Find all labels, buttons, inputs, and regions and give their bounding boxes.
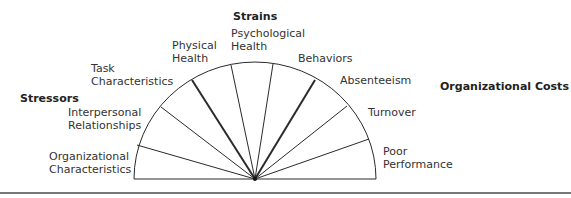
label-task-characteristics: TaskCharacteristics — [91, 62, 173, 88]
label-poor-performance: PoorPerformance — [383, 145, 453, 171]
label-interpersonal-relationships: InterpersonalRelationships — [68, 106, 141, 132]
bottom-rule — [0, 192, 571, 194]
header-stressors: Stressors — [20, 92, 79, 105]
label-physical-health: PhysicalHealth — [172, 39, 217, 65]
header-organizational-costs: Organizational Costs — [440, 80, 569, 93]
spoke-5 — [255, 64, 273, 179]
spoke-7 — [255, 106, 347, 179]
label-behaviors: Behaviors — [298, 52, 353, 65]
spoke-3-bold — [192, 80, 255, 179]
spoke-2 — [161, 107, 255, 179]
label-absenteeism: Absenteeism — [340, 74, 411, 87]
label-organizational-characteristics: OrganizationalCharacteristics — [49, 150, 131, 176]
spoke-6-bold — [255, 80, 315, 179]
header-strains: Strains — [233, 10, 277, 23]
hub — [253, 177, 257, 181]
label-psychological-health: PsychologicalHealth — [231, 27, 305, 53]
label-turnover: Turnover — [368, 106, 416, 119]
spoke-8 — [255, 139, 369, 179]
